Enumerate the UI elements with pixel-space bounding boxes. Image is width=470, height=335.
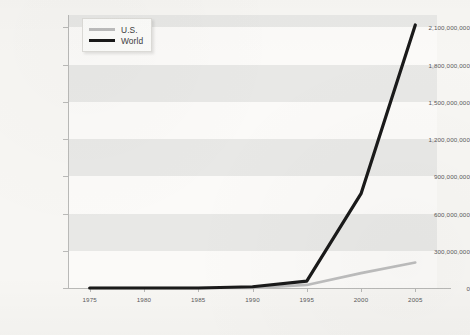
series-layer: [0, 0, 470, 335]
line-chart: 0300,000,000600,000,000900,000,0001,200,…: [0, 0, 470, 335]
legend-item-us: U.S.: [89, 24, 143, 35]
legend-swatch-world-icon: [89, 39, 115, 43]
series-line-us: [90, 263, 416, 288]
series-line-world: [90, 25, 416, 288]
legend-label-us: U.S.: [121, 25, 138, 35]
legend-swatch-us-icon: [89, 28, 115, 31]
legend-item-world: World: [89, 35, 143, 46]
chart-legend: U.S. World: [82, 18, 152, 52]
legend-label-world: World: [121, 36, 143, 46]
